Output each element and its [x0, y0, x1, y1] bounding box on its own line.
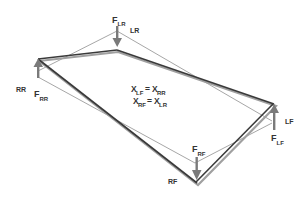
svg-text:RR: RR	[157, 90, 166, 96]
corner-label-rf: RF	[168, 178, 178, 185]
corner-label-lf: LF	[285, 118, 294, 125]
chassis-diagram: RR LR LF RF F RR F LR F LF F RF X LF = X…	[0, 0, 308, 198]
frame-edge-rr-rf	[38, 59, 197, 183]
svg-text:=: =	[145, 84, 150, 94]
frame-edge-lr-lf	[117, 50, 274, 104]
svg-text:RF: RF	[138, 102, 146, 108]
svg-text:LR: LR	[118, 21, 127, 27]
equation-2: X RF = X LR	[133, 96, 168, 108]
svg-text:=: =	[147, 96, 152, 106]
deflected-frame	[38, 50, 274, 183]
arrow-up-icon-lf	[270, 104, 280, 130]
svg-text:LF: LF	[277, 140, 285, 146]
force-label-lr: F LR	[112, 15, 126, 27]
force-label-rr: F RR	[34, 89, 49, 102]
corner-label-lr: LR	[130, 27, 139, 34]
svg-text:RF: RF	[198, 151, 206, 157]
svg-text:RR: RR	[40, 96, 49, 102]
frame-edge-rf-lf	[196, 104, 273, 182]
svg-text:LR: LR	[159, 102, 168, 108]
svg-text:LF: LF	[136, 90, 144, 96]
frame-shadow	[39, 52, 276, 185]
force-label-rf: F RF	[192, 144, 206, 157]
force-label-lf: F LF	[271, 133, 284, 146]
arrow-down-icon-lr	[113, 26, 123, 47]
corner-label-rr: RR	[16, 86, 26, 93]
equation-1: X LF = X RR	[131, 84, 166, 96]
